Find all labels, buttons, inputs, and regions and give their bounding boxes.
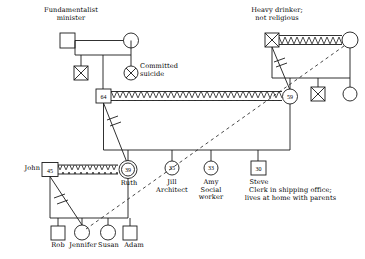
- person-steve-30: 30: [251, 161, 266, 175]
- person-john-45: 45: [42, 163, 58, 177]
- person-rob: [51, 226, 65, 240]
- label-committed-suicide: Committed suicide: [140, 63, 198, 78]
- person-ruth-39: 39: [119, 161, 137, 179]
- age-jill: 35: [169, 165, 175, 171]
- person-gg-son-deceased: [74, 66, 88, 80]
- label-steve-note: Clerk in shipping office; lives at home …: [218, 187, 363, 202]
- person-jennifer: [75, 225, 90, 240]
- genogram-canvas: 64 59 45 39: [0, 0, 365, 259]
- person-aunt: [343, 87, 357, 101]
- person-gg-drinker-wife: [342, 32, 358, 48]
- genogram-svg: 64 59 45 39: [0, 0, 365, 259]
- label-ruth: Ruth: [112, 180, 146, 188]
- label-jill: Jill Architect: [148, 179, 196, 194]
- label-john: John: [6, 165, 40, 173]
- age-mother-59: 59: [287, 94, 293, 100]
- person-susan: [101, 225, 116, 240]
- person-gg-daughter-suicide: [124, 66, 138, 80]
- cutoff-slash-2: [276, 63, 287, 67]
- age-father-64: 64: [101, 94, 107, 100]
- conflict-line-gg-right: [279, 36, 342, 45]
- conflict-line-parents: [111, 92, 282, 101]
- label-heavy-drinker: Heavy drinker; not religious: [230, 7, 324, 22]
- age-steve: 30: [256, 166, 262, 172]
- label-adam: Adam: [117, 242, 151, 250]
- person-gg-minister: [60, 33, 75, 48]
- age-ruth: 39: [125, 167, 131, 173]
- age-amy: 33: [208, 165, 214, 171]
- person-adam: [123, 226, 137, 240]
- person-jill-35: 35: [165, 161, 179, 175]
- person-father-64: 64: [96, 89, 111, 103]
- person-amy-33: 33: [204, 161, 218, 175]
- person-gg-heavy-drinker: [265, 33, 279, 47]
- person-uncle-deceased: [311, 87, 325, 101]
- conflict-line-john-ruth: [58, 165, 118, 174]
- label-fundamentalist-minister: Fundamentalist minister: [26, 7, 116, 22]
- cutoff-line-father-ruth: [104, 103, 129, 165]
- person-mother-59: 59: [283, 89, 298, 104]
- cutoff-slash-1: [274, 58, 285, 62]
- cutoff-line-drinker-mother: [272, 47, 290, 90]
- age-john: 45: [47, 168, 53, 174]
